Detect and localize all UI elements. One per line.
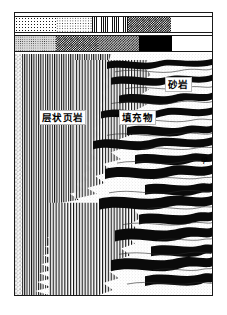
label-sandstone: 砂岩 bbox=[165, 77, 192, 92]
label-layered-shale: 层状页岩 bbox=[39, 110, 86, 125]
legend-cell-checker bbox=[128, 17, 170, 32]
label-filling-material: 填充物 bbox=[119, 110, 156, 125]
legend-cell-blank bbox=[171, 17, 212, 32]
legend-cell-speckle bbox=[15, 17, 56, 32]
legend-cell-checker-light bbox=[98, 36, 139, 51]
left-margin-speckle bbox=[15, 54, 22, 295]
legend-cell-grey bbox=[15, 36, 56, 51]
legend-cell-fine-dot bbox=[56, 17, 91, 32]
legend-bar-bottom bbox=[15, 35, 212, 52]
legend-bar-top bbox=[15, 16, 212, 33]
legend-cell-vertical bbox=[92, 17, 128, 32]
legend-cell-solid-black bbox=[139, 36, 172, 51]
figure-frame: 砂岩 层状页岩 填充物 φ bbox=[14, 12, 213, 296]
legend-cell-blank-2 bbox=[172, 36, 212, 51]
label-porosity-symbol: φ bbox=[201, 154, 207, 164]
legend-cell-checker-dark bbox=[56, 36, 97, 51]
